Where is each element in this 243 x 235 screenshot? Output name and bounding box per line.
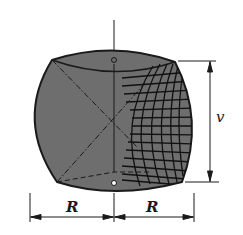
barrel-diagram: v R R xyxy=(0,0,243,235)
left-radius-label: R xyxy=(65,198,78,216)
right-radius-label: R xyxy=(145,198,158,216)
top-center-point xyxy=(112,58,117,63)
radius-dimensions xyxy=(30,193,194,222)
bottom-center-point xyxy=(112,181,117,186)
height-label: v xyxy=(216,108,225,126)
